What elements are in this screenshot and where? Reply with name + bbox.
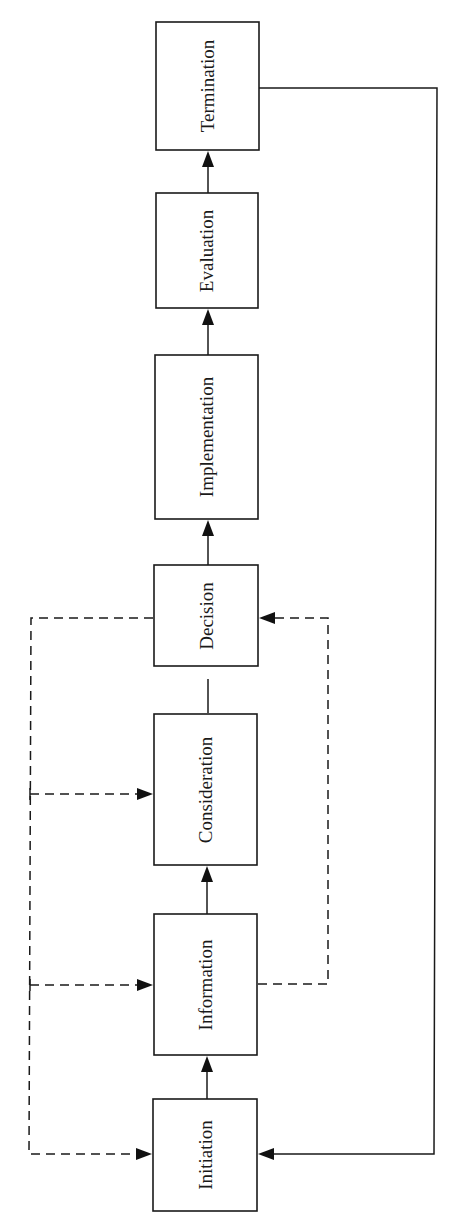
edge-termination-initiation-loop (258, 88, 437, 1160)
edge-decision-feedback-left (29, 618, 153, 1160)
arrowhead-right-icon (137, 788, 153, 800)
stage-initiation: Initiation (153, 1099, 257, 1211)
stage-label-consideration: Consideration (195, 736, 216, 843)
stage-information: Information (154, 914, 257, 1055)
policy-process-diagram: Termination Evaluation Implementation De… (0, 0, 466, 1225)
edge-decision-to-consideration-dashed (30, 788, 153, 800)
stage-consideration: Consideration (154, 714, 257, 865)
stage-termination: Termination (156, 22, 259, 150)
arrowhead-right-icon (136, 1148, 152, 1160)
edge-information-consideration (201, 866, 213, 914)
stage-evaluation: Evaluation (156, 193, 258, 308)
edge-information-to-decision-dashed (258, 612, 328, 984)
edge-decision-implementation (202, 520, 214, 565)
arrowhead-up-icon (202, 520, 214, 536)
arrowhead-up-icon (202, 151, 214, 167)
stage-label-implementation: Implementation (196, 376, 217, 497)
arrowhead-left-icon (258, 1148, 274, 1160)
arrowhead-up-icon (201, 1056, 213, 1072)
stage-label-termination: Termination (197, 39, 218, 132)
edge-decision-to-information-dashed (30, 979, 153, 991)
arrowhead-left-icon (259, 612, 275, 624)
stage-implementation: Implementation (155, 355, 258, 519)
edge-implementation-evaluation (202, 309, 214, 355)
arrowhead-right-icon (137, 979, 153, 991)
stage-label-information: Information (195, 939, 216, 1030)
arrowhead-up-icon (201, 866, 213, 882)
stage-label-evaluation: Evaluation (196, 209, 217, 292)
stage-decision: Decision (154, 565, 258, 666)
stage-label-decision: Decision (196, 582, 217, 650)
edge-evaluation-termination (202, 151, 214, 193)
arrowhead-up-icon (202, 309, 214, 325)
stage-label-initiation: Initiation (195, 1120, 216, 1190)
edge-initiation-information (201, 1056, 213, 1099)
